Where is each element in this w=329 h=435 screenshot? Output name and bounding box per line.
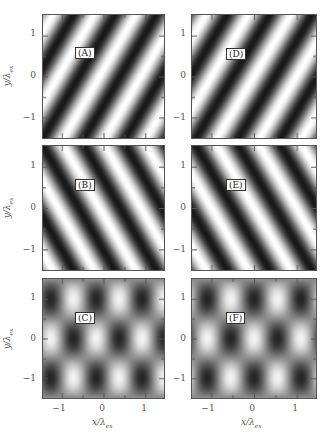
y-axis-title-text: y/λ <box>2 72 12 86</box>
heatmap-e <box>192 146 316 270</box>
y-tick-label: 1 <box>22 28 36 38</box>
x-tick-label: 0 <box>244 403 260 413</box>
y-tick-label: 0 <box>22 333 36 343</box>
y-tick-label: −1 <box>22 112 36 122</box>
y-tick-label: 0 <box>22 202 36 212</box>
y-axis-title: y/λex <box>2 66 14 87</box>
y-axis-title-sub: ex <box>7 329 14 336</box>
panel-a: (A) <box>42 14 165 139</box>
x-axis-title-text: x/λ <box>241 417 255 427</box>
panel-d: (D) <box>191 14 317 139</box>
panel-label-b: (B) <box>75 179 95 191</box>
panel-label-f: (F) <box>226 312 245 324</box>
heatmap-b <box>43 146 164 270</box>
panel-e: (E) <box>191 145 317 271</box>
heatmap-a <box>43 15 164 138</box>
y-tick-label: −1 <box>22 373 36 383</box>
y-tick-label: −1 <box>172 373 186 383</box>
x-axis-title-sub: ex <box>106 422 113 429</box>
y-tick-label: 1 <box>172 292 186 302</box>
y-tick-label: 1 <box>172 160 186 170</box>
y-tick-label: −1 <box>22 244 36 254</box>
y-axis-title-text: y/λ <box>2 204 12 218</box>
x-axis-title-sub: ex <box>255 422 262 429</box>
panel-label-d: (D) <box>226 48 246 60</box>
x-tick-label: 1 <box>136 403 152 413</box>
panel-b: (B) <box>42 145 165 271</box>
y-tick-label: 1 <box>22 160 36 170</box>
panel-c: (C) <box>42 278 165 399</box>
heatmap-d <box>192 15 316 138</box>
y-tick-label: 0 <box>172 202 186 212</box>
y-tick-label: −1 <box>172 112 186 122</box>
heatmap-f <box>192 279 316 398</box>
y-tick-label: 1 <box>22 292 36 302</box>
panel-label-c: (C) <box>75 312 95 324</box>
x-tick-label: 1 <box>287 403 303 413</box>
panel-label-e: (E) <box>226 179 246 191</box>
heatmap-c <box>43 279 164 398</box>
y-tick-label: 0 <box>22 70 36 80</box>
panel-label-a: (A) <box>75 47 95 59</box>
x-tick-label: 0 <box>94 403 110 413</box>
y-axis-title: y/λex <box>2 329 14 350</box>
y-axis-title-text: y/λ <box>2 335 12 349</box>
x-axis-title-text: x/λ <box>92 417 106 427</box>
x-axis-title: x/λex <box>92 417 113 429</box>
x-tick-label: −1 <box>200 403 216 413</box>
y-tick-label: 1 <box>172 28 186 38</box>
y-tick-label: 0 <box>172 333 186 343</box>
x-axis-title: x/λex <box>241 417 262 429</box>
y-axis-title-sub: ex <box>7 198 14 205</box>
y-tick-label: 0 <box>172 70 186 80</box>
panel-f: (F) <box>191 278 317 399</box>
x-tick-label: −1 <box>51 403 67 413</box>
y-axis-title: y/λex <box>2 198 14 219</box>
y-axis-title-sub: ex <box>7 66 14 73</box>
y-tick-label: −1 <box>172 244 186 254</box>
